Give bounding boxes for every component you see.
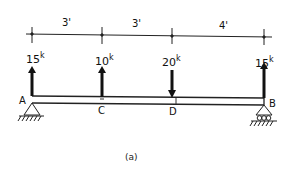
load-value-c: 10 [95,55,109,68]
beam [32,96,264,105]
load-arrow-a [28,66,36,96]
load-unit-a: k [40,51,45,60]
load-unit-d: k [176,54,181,63]
point-label-a: A [19,96,26,106]
load-unit-c: k [109,53,114,62]
load-label-c: 10k [95,54,114,67]
figure-caption: (a) [125,153,138,162]
load-unit-b: k [269,55,274,64]
load-arrow-c [98,66,106,97]
dimension-label-cd: 3' [132,19,141,29]
load-value-d: 20 [162,56,176,69]
load-label-a: 15k [26,52,45,65]
load-arrow-d [168,70,176,98]
point-label-c: C [98,106,105,116]
point-label-d: D [169,107,177,117]
load-value-b: 15 [255,57,269,70]
load-value-a: 15 [26,53,40,66]
load-label-d: 20k [162,55,181,68]
beam-diagram [0,0,290,173]
dimension-label-ac: 3' [62,18,71,28]
dimension-line [26,27,272,45]
load-label-b: 15k [255,56,274,69]
point-label-b: B [269,99,276,109]
dimension-label-db: 4' [219,21,228,31]
